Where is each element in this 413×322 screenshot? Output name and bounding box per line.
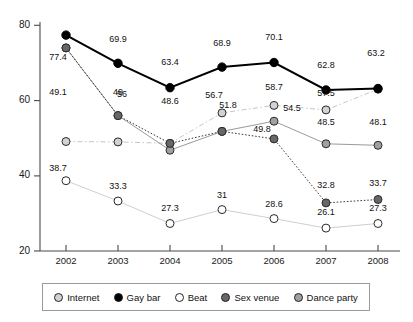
data-point-gay-bar-2005[interactable]	[218, 63, 226, 71]
data-point-beat-2008[interactable]	[374, 220, 382, 228]
data-point-gay-bar-2003[interactable]	[114, 59, 122, 67]
point-label-sexvenue-2004: 48.6	[155, 96, 185, 106]
legend-item-beat[interactable]: Beat	[175, 292, 208, 303]
point-label-gaybar-2007: 62.8	[311, 60, 341, 70]
data-point-beat-2005[interactable]	[218, 206, 226, 214]
y-tick-20: 20	[8, 245, 30, 256]
data-point-sex-venue-2006[interactable]	[270, 135, 278, 143]
data-point-beat-2006[interactable]	[270, 215, 278, 223]
point-label-sexvenue-2008: 33.7	[363, 178, 393, 188]
data-point-sex-venue-2002[interactable]	[62, 44, 70, 52]
legend-marker-beat-icon	[175, 293, 184, 302]
point-label-gaybar-2006: 70.1	[259, 32, 289, 42]
data-point-gay-bar-2002[interactable]	[62, 31, 70, 39]
point-label-danceparty-2006: 54.5	[277, 103, 307, 113]
legend-label-beat: Beat	[188, 292, 208, 303]
x-tick-2007: 2007	[306, 255, 346, 266]
data-point-sex-venue-2003[interactable]	[114, 112, 122, 120]
legend-item-sex-venue[interactable]: Sex venue	[221, 292, 279, 303]
point-label-gaybar-2004: 63.4	[155, 57, 185, 67]
point-label-internet-2007: 57.5	[311, 88, 341, 98]
y-tick-80: 80	[8, 19, 30, 30]
legend-marker-gay-bar-icon	[114, 293, 123, 302]
point-label-beat-2004: 27.3	[155, 203, 185, 213]
point-label-beat-2006: 28.6	[259, 199, 289, 209]
data-point-internet-2005[interactable]	[218, 109, 226, 117]
data-point-internet-2007[interactable]	[322, 106, 330, 114]
data-point-sex-venue-2004[interactable]	[166, 139, 174, 147]
chart-legend: Internet Gay bar Beat Sex venue Dance pa…	[42, 283, 370, 311]
data-point-dance-party-2007[interactable]	[322, 140, 330, 148]
legend-marker-internet-icon	[54, 293, 63, 302]
legend-item-gay-bar[interactable]: Gay bar	[114, 292, 161, 303]
plot-area: 80 60 40 20 2002 2003 2004 2005 2006 200…	[0, 0, 413, 270]
point-label-gaybar-2005: 68.9	[207, 38, 237, 48]
data-point-beat-2003[interactable]	[114, 197, 122, 205]
data-point-sex-venue-2005[interactable]	[218, 127, 226, 135]
point-label-beat-2007: 26.1	[311, 207, 341, 217]
y-tick-60: 60	[8, 94, 30, 105]
x-tick-2005: 2005	[202, 255, 242, 266]
point-label-gaybar-2008: 63.2	[361, 48, 391, 58]
point-label-internet-2002: 49.1	[43, 87, 73, 97]
data-point-sex-venue-2007[interactable]	[322, 199, 330, 207]
axes	[34, 22, 400, 251]
x-tick-2004: 2004	[150, 255, 190, 266]
data-point-beat-2004[interactable]	[166, 220, 174, 228]
point-label-internet-2005: 56.7	[199, 90, 229, 100]
chart-figure: 80 60 40 20 2002 2003 2004 2005 2006 200…	[0, 0, 413, 322]
data-point-beat-2002[interactable]	[62, 177, 70, 185]
point-label-sexvenue-2003: 56	[109, 89, 135, 99]
point-label-gaybar-2002: 77.4	[43, 52, 73, 62]
data-point-internet-2003[interactable]	[114, 138, 122, 146]
point-label-sexvenue-2006: 49.8	[247, 124, 277, 134]
data-point-gay-bar-2006[interactable]	[270, 58, 278, 66]
point-label-internet-2006: 58.7	[259, 82, 289, 92]
legend-label-gay-bar: Gay bar	[127, 292, 161, 303]
point-label-sexvenue-2007: 32.8	[311, 180, 341, 190]
data-point-beat-2007[interactable]	[322, 224, 330, 232]
legend-item-dance-party[interactable]: Dance party	[294, 292, 358, 303]
legend-marker-dance-party-icon	[294, 293, 303, 302]
x-tick-2006: 2006	[254, 255, 294, 266]
legend-label-dance-party: Dance party	[307, 292, 358, 303]
point-label-danceparty-2007: 48.5	[311, 117, 341, 127]
legend-item-internet[interactable]: Internet	[54, 292, 99, 303]
data-point-gay-bar-2004[interactable]	[166, 84, 174, 92]
point-label-beat-2002: 38.7	[43, 163, 73, 173]
data-point-internet-2002[interactable]	[62, 138, 70, 146]
point-label-beat-2003: 33.3	[103, 181, 133, 191]
point-label-danceparty-2008: 48.1	[363, 117, 393, 127]
data-point-dance-party-2008[interactable]	[374, 141, 382, 149]
legend-label-sex-venue: Sex venue	[234, 292, 279, 303]
point-label-beat-2008: 27.3	[363, 203, 393, 213]
x-tick-2002: 2002	[46, 255, 86, 266]
x-tick-2003: 2003	[98, 255, 138, 266]
y-tick-40: 40	[8, 169, 30, 180]
point-label-beat-2005: 31	[207, 190, 237, 200]
point-label-gaybar-2003: 69.9	[103, 34, 133, 44]
legend-marker-sex-venue-icon	[221, 293, 230, 302]
point-label-sexvenue-2005: 51.8	[213, 100, 243, 110]
x-tick-2008: 2008	[358, 255, 398, 266]
data-point-gay-bar-2008[interactable]	[374, 84, 382, 92]
legend-label-internet: Internet	[67, 292, 99, 303]
